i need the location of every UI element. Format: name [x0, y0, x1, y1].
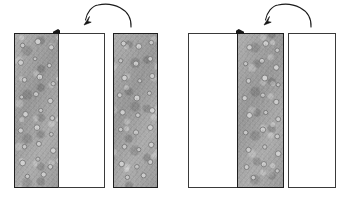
aggregate-speck-layer [114, 34, 157, 182]
right-textured-panel [237, 33, 284, 188]
left-plain-panel [58, 33, 105, 188]
aggregate-speck-layer [238, 34, 283, 182]
aggregate-speck-layer [15, 34, 58, 182]
left-arrowhead [84, 17, 91, 26]
left-detached-textured-panel [113, 33, 158, 188]
right-corner-tab [236, 29, 244, 34]
left-textured-panel [14, 33, 59, 188]
right-plain-panel-a [188, 33, 238, 188]
left-rotation-arrow [86, 4, 132, 27]
right-rotation-arrow [266, 4, 312, 27]
right-plain-panel-b [288, 33, 336, 188]
right-arrowhead [264, 17, 271, 26]
left-corner-tab [53, 29, 60, 34]
panel-diagram-figure [0, 0, 351, 201]
